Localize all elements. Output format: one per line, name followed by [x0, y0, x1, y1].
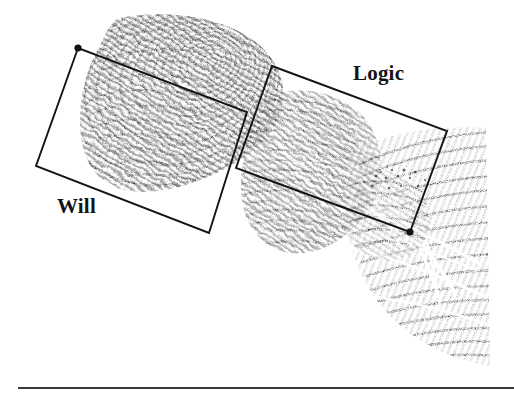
logic-label: Logic	[353, 61, 404, 86]
will-label: Will	[57, 194, 96, 219]
will-leader-dot	[74, 44, 81, 51]
figure-root: Will Logic	[0, 0, 514, 406]
logic-leader-dot	[406, 228, 413, 235]
